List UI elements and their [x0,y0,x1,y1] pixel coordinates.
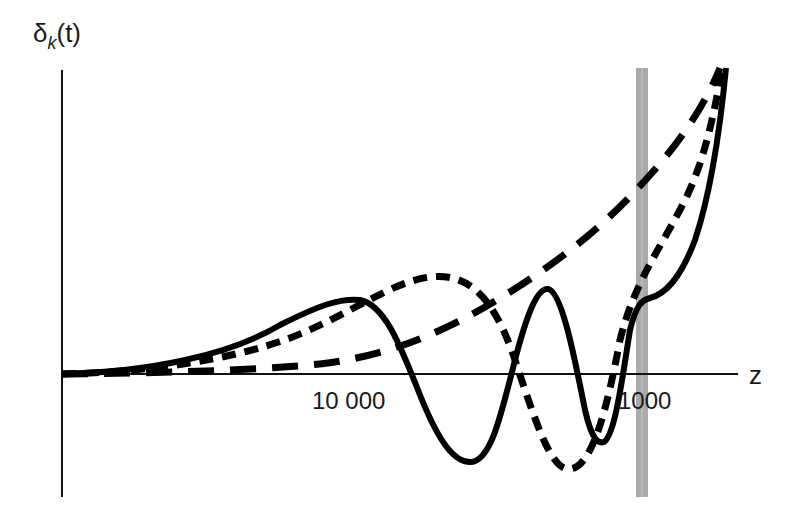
y-axis-label-suffix: (t) [56,18,81,48]
y-axis-label: δk(t) [33,18,81,53]
chart: δk(t) z 10 000 1000 [0,0,800,519]
y-axis-label-main: δ [33,18,47,48]
x-axis-label: z [749,360,762,390]
tick-label-10000: 10 000 [312,387,385,414]
tick-label-1000: 1000 [618,387,671,414]
